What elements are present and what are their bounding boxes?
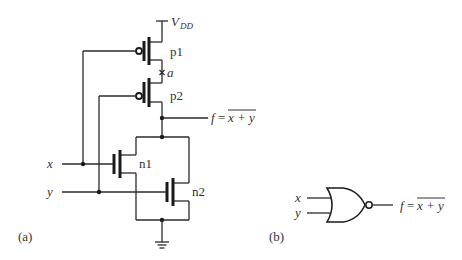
ground-symbol	[155, 218, 169, 248]
transistor-n2: n2	[167, 137, 205, 220]
p2-label: p2	[170, 88, 183, 103]
n1-label: n1	[139, 156, 152, 171]
nor-bubble	[366, 202, 372, 208]
transistor-p2: p2	[99, 78, 183, 107]
svg-text:=: =	[407, 198, 414, 213]
svg-text:y: y	[45, 184, 53, 199]
output-expression-a: f = x + y	[211, 110, 256, 125]
input-y: y	[45, 96, 166, 199]
p2-gate-bubble	[136, 93, 142, 99]
node-a-label: a	[167, 65, 174, 80]
svg-text:x: x	[294, 190, 301, 205]
svg-text:x: x	[46, 156, 53, 171]
p1-gate-bubble	[136, 48, 142, 54]
panel-b-label: (b)	[269, 229, 284, 244]
vdd-subscript: DD	[179, 21, 193, 31]
svg-text:x + y: x + y	[227, 110, 255, 125]
nor-gate: x y f = x + y	[293, 188, 445, 222]
output-expression-b: f = x + y	[400, 198, 445, 213]
panel-a-label: (a)	[18, 229, 32, 244]
p1-label: p1	[170, 44, 183, 59]
svg-text:f: f	[211, 110, 217, 125]
transistor-p1: p1	[83, 37, 183, 65]
svg-text:=: =	[218, 110, 225, 125]
svg-text:f: f	[400, 198, 406, 213]
cmos-nor-diagram: V DD p1 a p2 f = x + y	[0, 0, 462, 260]
transistor-n1: n1	[114, 137, 152, 220]
vdd-supply: V DD	[156, 14, 193, 42]
input-x: x	[46, 51, 113, 171]
svg-text:y: y	[293, 205, 301, 220]
n2-label: n2	[192, 184, 205, 199]
svg-text:x + y: x + y	[416, 198, 444, 213]
